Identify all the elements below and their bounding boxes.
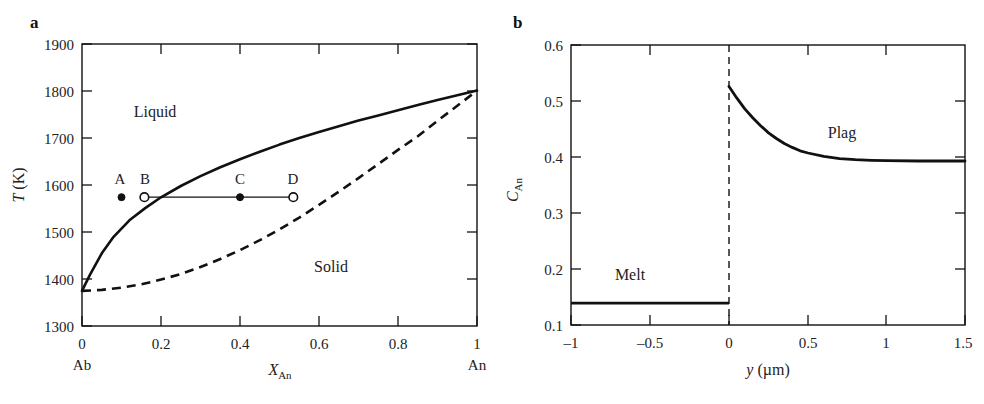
panel-b-ylabel-0_5: 0.5 [544, 94, 563, 110]
region-label-plag: Plag [828, 124, 856, 142]
panel-b-frame [571, 45, 965, 325]
panel-b-ylabel-0_2: 0.2 [544, 262, 563, 278]
panel-b-y-axis-title-symbol: C [504, 191, 521, 202]
panel-b-ylabel-0_4: 0.4 [544, 150, 563, 166]
panel-b-xlabel-1: 1 [882, 335, 890, 351]
panel-b-xlabel-neg0_5: –0.5 [636, 335, 663, 351]
panel-b-ylabel-0_6: 0.6 [544, 38, 563, 54]
panel-b-xlabel-0: 0 [725, 335, 733, 351]
panel-b-xlabel-0_5: 0.5 [799, 335, 818, 351]
panel-b-y-axis-title-subscript: An [512, 177, 524, 191]
panel-b-concentration-profile: b 0.6 0.5 0.4 0.3 0.2 0.1 CAn [0, 0, 984, 404]
panel-b-y-axis-title: CAn [504, 177, 524, 202]
figure-container: a 1900 1800 1700 1600 1500 1400 1300 [0, 0, 984, 404]
panel-b-x-axis-title-unit: (µm) [753, 361, 789, 379]
panel-b-ylabel-0_3: 0.3 [544, 206, 563, 222]
panel-b-ylabel-0_1: 0.1 [544, 318, 563, 334]
svg-text:CAn: CAn [504, 177, 524, 202]
region-label-melt: Melt [615, 266, 646, 283]
panel-b-xlabel-1_5: 1.5 [954, 335, 973, 351]
panel-b-x-axis-title: y (µm) [744, 361, 789, 379]
panel-b-x-ticks [571, 45, 965, 325]
panel-b-letter: b [513, 13, 522, 32]
panel-b-xlabel-neg1: –1 [563, 335, 579, 351]
panel-b-y-ticks [571, 45, 965, 325]
